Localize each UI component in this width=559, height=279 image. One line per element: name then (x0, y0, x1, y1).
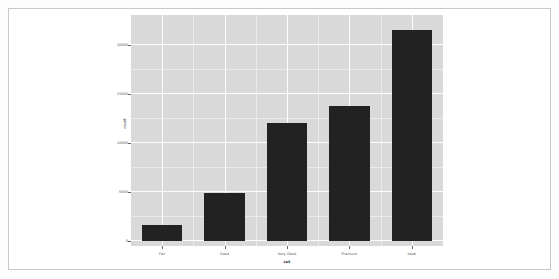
bar-ideal (392, 30, 433, 241)
x-tick-label: Very Good (262, 252, 312, 256)
y-tick-mark (128, 143, 131, 144)
x-tick-mark (225, 246, 226, 249)
screenshot-root: 05000100001500020000 count FairGoodVery … (0, 0, 559, 279)
bar-premium (329, 106, 370, 241)
x-tick-label: Good (200, 252, 250, 256)
x-tick-mark (162, 246, 163, 249)
y-tick-label: 20000 (117, 43, 128, 47)
x-tick-mark (349, 246, 350, 249)
ggplot-figure: 05000100001500020000 count FairGoodVery … (9, 9, 550, 269)
y-tick-label: 15000 (117, 92, 128, 96)
x-tick-label: Ideal (387, 252, 437, 256)
y-tick-mark (128, 45, 131, 46)
chart-panel (131, 15, 443, 246)
x-tick-mark (287, 246, 288, 249)
bar-very-good (267, 123, 308, 241)
y-tick-mark (128, 241, 131, 242)
y-tick-label: 5000 (119, 190, 128, 194)
bars-group (131, 15, 443, 246)
bar-good (204, 193, 245, 241)
y-tick-mark (128, 94, 131, 95)
y-axis-labels: 05000100001500020000 (113, 9, 128, 269)
y-tick-mark (128, 192, 131, 193)
x-tick-label: Premium (324, 252, 374, 256)
y-tick-label: 10000 (117, 141, 128, 145)
x-tick-label: Fair (137, 252, 187, 256)
bar-fair (142, 225, 183, 241)
x-tick-mark (412, 246, 413, 249)
y-axis-title: count (122, 109, 127, 139)
x-axis-title: cut (131, 259, 443, 264)
